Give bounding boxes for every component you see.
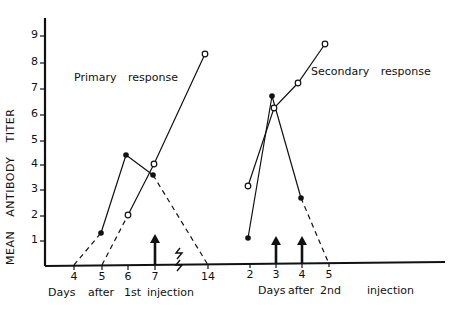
- y-tick-label: 6: [26, 107, 38, 120]
- x-tick-label: 4: [292, 268, 312, 281]
- x-tick-label: 5: [92, 270, 112, 283]
- y-tick-label: 5: [26, 133, 38, 146]
- primary-open-series: [102, 54, 205, 265]
- x2-label-injection: injection: [367, 284, 414, 297]
- x-tick-label: 6: [118, 270, 138, 283]
- y-tick-label: 7: [26, 81, 38, 94]
- primary-response-title: Primary response: [74, 71, 178, 84]
- filled-markers: [98, 93, 304, 241]
- axis-break-icon: [176, 248, 182, 271]
- y-tick-label: 3: [26, 182, 38, 195]
- x1-label-ordinal: 1st: [124, 286, 141, 299]
- x2-label-days: Days: [258, 284, 285, 297]
- x1-label-after: after: [88, 286, 114, 299]
- y-tick-label: 2: [26, 208, 38, 221]
- x-tick-label: 3: [266, 268, 286, 281]
- open-markers: [125, 41, 328, 218]
- x1-label-days: Days: [48, 286, 75, 299]
- x2-label-after: after: [288, 284, 314, 297]
- x-tick-label: 5: [319, 268, 339, 281]
- x-tick-label: 7: [145, 270, 165, 283]
- x-axis: [45, 262, 445, 266]
- chart-plot: [0, 0, 454, 309]
- y-tick-label: 9: [26, 28, 38, 41]
- primary-filled-series: [74, 155, 208, 265]
- secondary-filled-series: [248, 96, 329, 264]
- y-tick-label: 8: [26, 55, 38, 68]
- x1-label-injection: injection: [147, 286, 194, 299]
- y-axis-title: MEAN ANTIBODY TITER: [4, 109, 17, 265]
- x-tick-label: 2: [240, 268, 260, 281]
- x2-label-ordinal: 2nd: [320, 284, 341, 297]
- x-tick-label: 14: [198, 270, 218, 283]
- y-tick-label: 4: [26, 157, 38, 170]
- x-tick-label: 4: [64, 270, 84, 283]
- y-tick-label: 1: [26, 233, 38, 246]
- injection-arrow-icon: [150, 234, 307, 264]
- secondary-response-title: Secondary response: [311, 65, 431, 78]
